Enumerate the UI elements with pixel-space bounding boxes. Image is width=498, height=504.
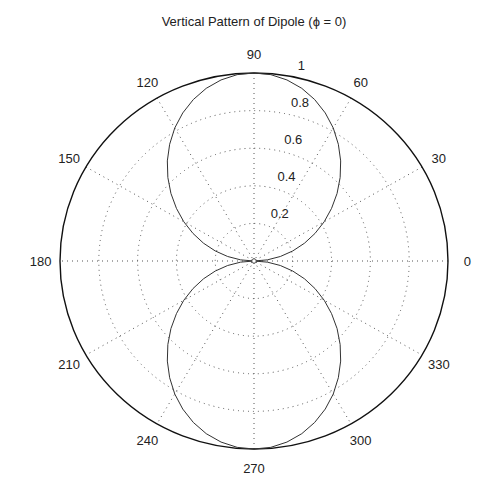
angle-tick-label: 90 xyxy=(247,47,261,62)
origin-marker xyxy=(252,259,256,263)
radial-tick-label: 0.4 xyxy=(277,169,295,184)
radial-tick-label: 1 xyxy=(298,58,305,73)
radial-tick-label: 0.8 xyxy=(291,95,309,110)
angle-tick-label: 300 xyxy=(350,433,372,448)
angle-tick-label: 120 xyxy=(136,75,158,90)
angle-tick-label: 30 xyxy=(432,151,446,166)
angle-tick-label: 60 xyxy=(353,75,367,90)
radial-tick-labels: 0.20.40.60.81 xyxy=(271,58,309,221)
angle-tick-label: 0 xyxy=(464,254,471,269)
radial-tick-label: 0.6 xyxy=(284,132,302,147)
chart-title: Vertical Pattern of Dipole (ϕ = 0) xyxy=(162,14,347,29)
angle-tick-label: 180 xyxy=(30,254,52,269)
radial-tick-label: 0.2 xyxy=(271,206,289,221)
angle-tick-label: 150 xyxy=(58,151,80,166)
angle-tick-label: 330 xyxy=(428,357,450,372)
polar-chart: Vertical Pattern of Dipole (ϕ = 0) 03060… xyxy=(0,0,498,504)
angle-tick-label: 210 xyxy=(58,357,80,372)
angle-tick-label: 240 xyxy=(136,433,158,448)
angle-tick-label: 270 xyxy=(243,461,265,476)
